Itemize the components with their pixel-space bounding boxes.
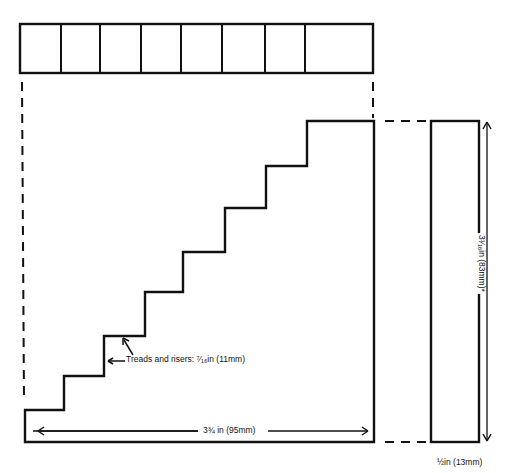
top-view-dividers <box>61 24 305 73</box>
projection-lines <box>22 82 428 442</box>
staircase-diagram <box>0 0 515 473</box>
treads-risers-label: Treads and risers: ⁷⁄₁₆in (11mm) <box>126 355 245 364</box>
staircase-profile <box>25 121 374 442</box>
end-view-block <box>431 121 479 442</box>
top-view-strip <box>20 24 373 73</box>
thickness-label: ½in (13mm) <box>437 458 482 467</box>
overall-height-label: 3¹⁄₁₆in (83mm)* <box>478 233 487 294</box>
overall-width-label: 3¾ in (95mm) <box>200 426 258 435</box>
